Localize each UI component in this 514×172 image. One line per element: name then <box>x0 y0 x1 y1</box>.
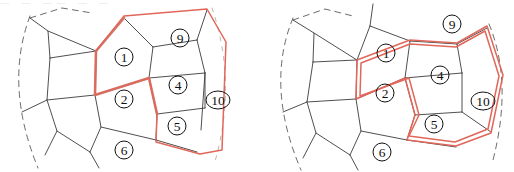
right-tiling-diagram: 19241056 <box>257 0 514 172</box>
cell-number-label-2: 2 <box>121 92 128 107</box>
cell-edge-19 <box>157 108 205 114</box>
cell-edge-2 <box>314 33 357 60</box>
cell-edge-2 <box>48 31 96 51</box>
cell-number-label-6: 6 <box>379 145 386 160</box>
cell-number-label-9: 9 <box>449 17 456 32</box>
cell-edge-4 <box>307 99 356 102</box>
cell-edge-7 <box>303 102 316 158</box>
cell-edge-3 <box>283 62 313 112</box>
cell-edge-12 <box>405 41 410 78</box>
cell-edge-19 <box>415 112 462 115</box>
cell-number-label-10: 10 <box>476 94 490 109</box>
cell-edge-0 <box>293 20 314 62</box>
cell-edge-9 <box>90 152 99 168</box>
cell-number-label-1: 1 <box>121 50 128 65</box>
cell-edge-3 <box>22 58 50 112</box>
cell-edge-22 <box>156 140 197 152</box>
cell-number-label-2: 2 <box>382 86 389 101</box>
cell-number-label-9: 9 <box>177 31 184 46</box>
cell-edge-23 <box>370 4 373 26</box>
cell-edge-12 <box>149 47 153 78</box>
cell-edge-0 <box>30 18 50 58</box>
cell-number-label-5: 5 <box>174 119 181 134</box>
cell-edge-6 <box>350 99 361 155</box>
dashed-boundary-arc-0 <box>19 16 38 168</box>
cell-edge-10 <box>357 26 370 60</box>
cell-edge-15 <box>197 40 205 73</box>
cell-edge-9 <box>350 155 358 170</box>
cell-edge-8 <box>316 133 350 155</box>
cell-number-label-4: 4 <box>437 68 444 83</box>
cell-edge-23 <box>197 10 207 40</box>
cell-edge-4 <box>47 95 95 100</box>
cell-number-label-4: 4 <box>175 78 182 93</box>
cell-edge-15 <box>457 44 462 73</box>
red-region-boundary <box>356 26 503 146</box>
dashed-boundary-arc-0 <box>281 18 301 170</box>
cell-edge-1 <box>313 60 357 62</box>
cell-edge-11 <box>370 26 410 41</box>
cell-edge-21 <box>361 131 407 140</box>
dashed-boundary-arc-2 <box>30 8 92 18</box>
cell-edge-8 <box>57 131 90 152</box>
cell-edge-1 <box>50 51 96 58</box>
cell-edge-7 <box>45 100 57 155</box>
cell-edge-17 <box>201 73 205 130</box>
cell-edge-6 <box>90 95 101 152</box>
cell-number-label-1: 1 <box>383 46 390 61</box>
right-red-boundary <box>356 26 503 146</box>
cell-edge-21 <box>101 127 156 140</box>
left-cell-number-labels: 19241056 <box>115 29 230 159</box>
cell-edge-11 <box>124 18 153 47</box>
cell-number-label-10: 10 <box>211 93 225 108</box>
cell-edge-16 <box>405 73 462 78</box>
cell-number-label-5: 5 <box>431 117 438 132</box>
dashed-boundary-arc-1 <box>212 8 226 165</box>
left-tiling-diagram: 19241056 <box>0 0 257 172</box>
figure-container: — — —— — — 19241056 19241056 <box>0 0 514 172</box>
dashed-boundary-arc-2 <box>293 9 353 20</box>
cell-edge-24 <box>457 28 487 44</box>
cell-number-label-6: 6 <box>121 143 128 158</box>
